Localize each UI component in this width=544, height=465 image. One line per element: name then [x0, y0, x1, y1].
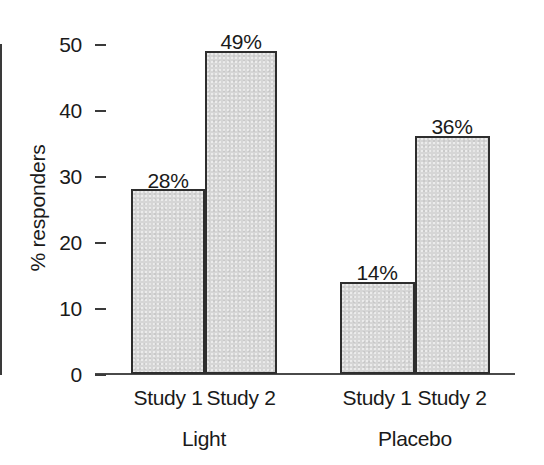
bar-value-placebo-study-2: 36% — [405, 116, 499, 137]
bar-light-study-1 — [131, 189, 205, 374]
bar-value-light-study-2: 49% — [194, 31, 288, 52]
bar-value-placebo-study-1: 14% — [330, 262, 424, 283]
x-category-label-light-study-2: Study 2 — [194, 387, 288, 408]
bar-value-light-study-1: 28% — [121, 170, 215, 191]
bar-placebo-study-1 — [340, 282, 415, 374]
y-tick-mark-0 — [95, 374, 106, 376]
bar-light-study-2 — [205, 51, 277, 374]
plot-area: 28% 49% 14% 36% — [95, 44, 515, 374]
y-tick-label-40: 40 — [20, 100, 82, 121]
x-category-label-placebo-study-2: Study 2 — [405, 387, 499, 408]
x-group-label-light: Light — [157, 428, 251, 449]
y-tick-label-50: 50 — [20, 34, 82, 55]
y-tick-label-30: 30 — [20, 166, 82, 187]
x-group-label-placebo: Placebo — [368, 428, 462, 449]
bar-chart-figure: % responders 50 40 30 20 10 0 28% 49% 14… — [0, 0, 544, 465]
y-axis-title: % responders — [26, 108, 50, 308]
y-tick-label-0: 0 — [20, 364, 82, 385]
y-axis-line — [0, 44, 2, 375]
y-tick-label-10: 10 — [20, 298, 82, 319]
bar-placebo-study-2 — [415, 136, 490, 374]
y-tick-label-20: 20 — [20, 232, 82, 253]
